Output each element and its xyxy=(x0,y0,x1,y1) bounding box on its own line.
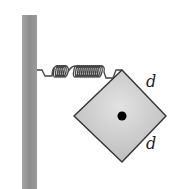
pivot-dot xyxy=(118,112,127,121)
side-label-bottom: d xyxy=(146,134,156,153)
side-label-top: d xyxy=(146,72,156,91)
diagram-graphic xyxy=(0,0,183,189)
diagram: d d xyxy=(0,0,183,189)
spring xyxy=(37,66,122,78)
wall xyxy=(22,15,37,189)
